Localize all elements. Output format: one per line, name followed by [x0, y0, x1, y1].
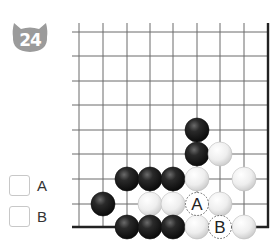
white-stone: [185, 167, 209, 191]
white-stone: [232, 215, 256, 239]
svg-text:B: B: [214, 218, 225, 237]
option-b-label: B: [37, 208, 47, 225]
black-stone: [91, 192, 115, 216]
white-stone: [138, 192, 162, 216]
white-stone: [161, 192, 185, 216]
problem-number-badge: 24: [11, 21, 49, 53]
black-stone: [161, 215, 185, 239]
black-stone: [185, 118, 209, 142]
white-stone: [208, 192, 232, 216]
marker-a[interactable]: A: [186, 193, 209, 216]
svg-text:A: A: [191, 195, 203, 214]
black-stone: [115, 215, 139, 239]
option-b-checkbox[interactable]: [9, 206, 30, 227]
option-a[interactable]: A: [9, 175, 33, 199]
black-stone: [115, 167, 139, 191]
marker-b[interactable]: B: [209, 216, 232, 239]
white-stone: [208, 142, 232, 166]
option-a-label: A: [37, 177, 47, 194]
black-stone: [138, 167, 162, 191]
white-stone: [232, 167, 256, 191]
black-stone: [161, 167, 185, 191]
option-b[interactable]: B: [9, 206, 33, 230]
problem-number: 24: [11, 30, 49, 50]
white-stone: [185, 215, 209, 239]
black-stone: [185, 142, 209, 166]
black-stone: [138, 215, 162, 239]
option-a-checkbox[interactable]: [9, 175, 30, 196]
